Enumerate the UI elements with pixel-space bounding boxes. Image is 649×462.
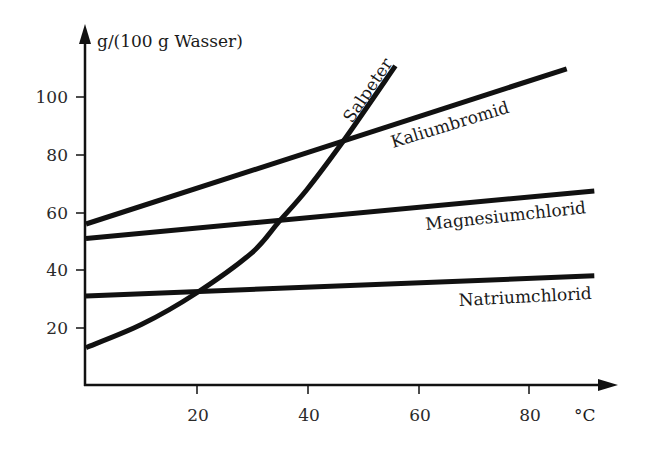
x-tick-label: 80 — [519, 405, 541, 425]
y-axis — [79, 24, 91, 386]
series-label-natriumchlorid: Natriumchlorid — [458, 283, 592, 310]
x-tick-label: 60 — [409, 405, 431, 425]
y-tick-label: 40 — [46, 260, 68, 280]
y-tick-label: 80 — [46, 145, 68, 165]
series-label-salpeter: Salpeter — [339, 54, 397, 127]
y-axis-arrow-icon — [79, 24, 91, 44]
y-tick-label: 60 — [46, 203, 68, 223]
x-tick-label: 40 — [298, 405, 320, 425]
x-tick-label: 20 — [187, 405, 209, 425]
x-axis-arrow-icon — [598, 379, 618, 391]
x-axis-unit: °C — [574, 405, 596, 425]
y-tick-label: 100 — [36, 87, 68, 107]
y-axis-title: g/(100 g Wasser) — [97, 31, 243, 51]
y-tick-label: 20 — [46, 318, 68, 338]
x-axis — [84, 379, 618, 391]
x-ticks: 20 40 60 80 — [187, 385, 541, 425]
y-ticks: 100 80 60 40 20 — [36, 87, 85, 338]
solubility-chart: 100 80 60 40 20 20 40 60 80 g/(100 g Was… — [0, 0, 649, 462]
